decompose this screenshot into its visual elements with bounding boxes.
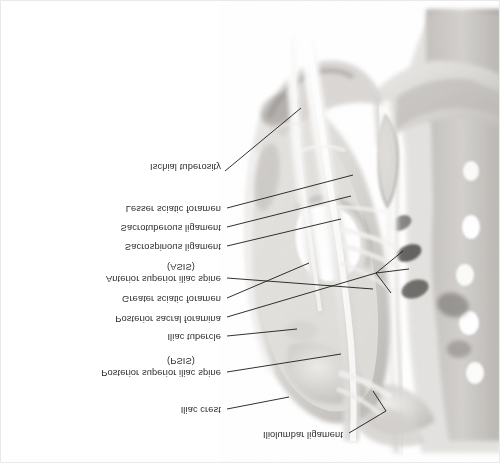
label-anterior-superior-iliac-spine: Anterior superior iliac spine	[21, 273, 221, 284]
label-asis-abbrev: (ASIS)	[141, 261, 221, 272]
label-iliac-tubercle: Iliac tubercle	[127, 331, 221, 342]
label-lesser-sciatic-foramen: Lesser sciatic foramen	[57, 203, 221, 214]
label-posterior-superior-iliac-spine: Posterior superior iliac spine	[17, 367, 221, 378]
label-iliac-crest: Iliac crest	[135, 404, 221, 415]
anatomy-figure: Ischial tuberosityLesser sciatic foramen…	[0, 0, 500, 463]
label-sacrospinous-ligament: Sacrospinous ligament	[53, 241, 221, 252]
label-psis-abbrev: (PSIS)	[141, 355, 221, 366]
label-layer: Ischial tuberosityLesser sciatic foramen…	[1, 1, 500, 463]
label-greater-sciatic-foramen: Greater sciatic foramen	[45, 293, 221, 304]
label-iliolumbar-ligament: Iliolumbar ligament	[197, 429, 343, 440]
label-sacrotuberous-ligament: Sacrotuberous ligament	[49, 222, 221, 233]
label-posterior-sacral-foramina: Posterior sacral foramina	[39, 313, 221, 324]
label-ischial-tuberosity: Ischial tuberosity	[129, 161, 221, 172]
